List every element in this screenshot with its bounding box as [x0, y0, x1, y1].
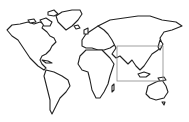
- tasmania: [162, 102, 165, 105]
- cuba: [42, 60, 52, 63]
- world-map: [0, 0, 189, 122]
- indonesia: [138, 72, 150, 77]
- world-outline: [0, 0, 189, 122]
- australia: [146, 80, 168, 100]
- uk: [84, 28, 88, 34]
- south-america: [44, 70, 70, 114]
- africa: [78, 50, 114, 98]
- iceland: [74, 25, 80, 29]
- madagascar: [112, 84, 114, 92]
- new-guinea: [158, 77, 166, 81]
